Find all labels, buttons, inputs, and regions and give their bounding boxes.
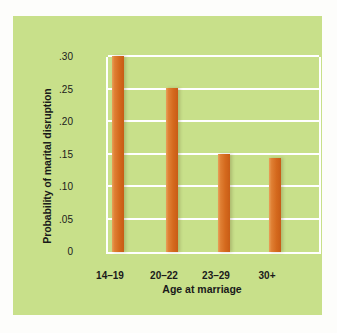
gridline-030 <box>108 55 319 57</box>
gridline-025 <box>108 88 319 90</box>
bar-20-22 <box>166 88 178 252</box>
y-tick-020: .20 <box>33 116 73 127</box>
x-tick-30plus: 30+ <box>232 270 302 281</box>
chart-panel: Probability of marital disruption .30 .2… <box>13 16 322 315</box>
gridline-005 <box>108 218 319 220</box>
bar-14-19 <box>112 56 124 252</box>
gridline-015 <box>108 153 319 155</box>
plot-area <box>106 57 321 254</box>
y-tick-010: .10 <box>33 181 73 192</box>
y-tick-025: .25 <box>33 84 73 95</box>
bar-23-29 <box>218 154 230 252</box>
y-tick-005: .05 <box>33 214 73 225</box>
y-axis-title: Probability of marital disruption <box>41 66 53 266</box>
bar-30plus <box>269 158 281 252</box>
y-tick-030: .30 <box>33 51 73 62</box>
y-tick-015: .15 <box>33 149 73 160</box>
y-tick-0: 0 <box>33 246 73 257</box>
gridline-010 <box>108 185 319 187</box>
gridline-020 <box>108 120 319 122</box>
chart-figure: Probability of marital disruption .30 .2… <box>0 0 337 333</box>
x-axis-title: Age at marriage <box>97 283 307 295</box>
